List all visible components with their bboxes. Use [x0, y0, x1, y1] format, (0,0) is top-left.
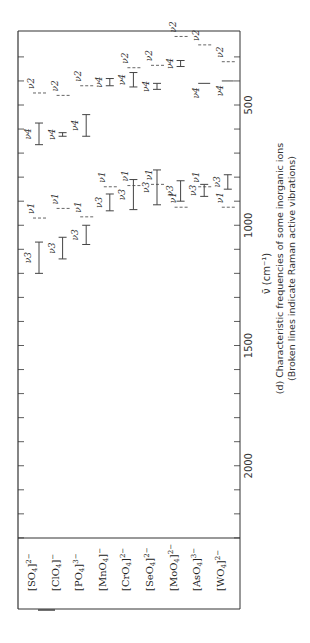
- band-nu3: ν3: [188, 184, 208, 196]
- ion-label: [PO4]3−: [72, 553, 86, 591]
- svg-text:ν4: ν4: [70, 120, 80, 131]
- ion-label: [WO4]2−: [214, 550, 228, 591]
- svg-text:ν2: ν2: [26, 78, 36, 89]
- band-nu4: ν4: [215, 81, 234, 96]
- svg-text:ν4: ν4: [117, 74, 127, 85]
- svg-text:ν1: ν1: [215, 192, 225, 203]
- svg-text:ν3: ν3: [165, 185, 175, 196]
- svg-text:ν1: ν1: [191, 172, 201, 183]
- svg-text:ν3: ν3: [188, 185, 198, 196]
- band-nu3: ν3: [70, 225, 90, 244]
- svg-text:ν3: ν3: [47, 242, 57, 253]
- svg-text:ν4: ν4: [141, 80, 151, 91]
- x-tick-label: 2000: [243, 453, 254, 478]
- band-nu4: ν4: [94, 76, 114, 87]
- ion-labels: [SO4]2−[ClO4]−[PO4]3−[MnO4]−[CrO4]2−[SeO…: [25, 544, 228, 591]
- svg-text:ν1: ν1: [144, 169, 154, 180]
- x-tick-label: 500: [243, 95, 254, 114]
- svg-text:ν2: ν2: [215, 46, 225, 57]
- band-nu2: ν2: [144, 50, 164, 65]
- svg-text:ν4: ν4: [191, 87, 201, 98]
- ion-label: [MnO4]−: [96, 548, 110, 591]
- svg-text:ν2: ν2: [50, 80, 60, 91]
- band-nu3: ν3: [94, 194, 114, 211]
- svg-text:ν2: ν2: [168, 21, 178, 32]
- band-nu2: ν2: [191, 29, 211, 44]
- band-nu1: ν1: [26, 203, 46, 218]
- band-nu2: ν2: [50, 80, 70, 95]
- svg-text:ν1: ν1: [97, 172, 107, 183]
- band-nu1: ν1: [73, 202, 93, 217]
- band-nu1: ν1: [50, 193, 70, 208]
- chart-frame: [18, 31, 240, 610]
- caption-title: (d) Characteristic frequencies of some i…: [274, 143, 285, 395]
- band-marks: ν2ν4ν1ν3ν2ν4ν1ν3ν2ν4ν1ν3ν4ν1ν3ν2ν4ν1ν3ν2…: [23, 21, 235, 273]
- svg-text:ν4: ν4: [23, 128, 33, 139]
- frequency-chart: 500100015002000ν̄ (cm⁻¹) ν2ν4ν1ν3ν2ν4ν1ν…: [0, 0, 310, 643]
- x-axis-label: ν̄ (cm⁻¹): [261, 253, 272, 294]
- svg-text:ν1: ν1: [73, 202, 83, 213]
- band-nu2: ν2: [73, 70, 93, 85]
- chart-caption: (d) Characteristic frequencies of some i…: [274, 143, 297, 395]
- ion-label: [ClO4]−: [49, 554, 63, 591]
- svg-text:ν1: ν1: [50, 193, 60, 204]
- svg-text:ν1: ν1: [120, 170, 130, 181]
- svg-text:ν4: ν4: [47, 129, 57, 140]
- band-nu3: ν3: [117, 180, 137, 210]
- band-nu1: ν1: [120, 170, 140, 185]
- svg-text:ν1: ν1: [26, 203, 36, 214]
- ion-label: [SO4]2−: [25, 553, 39, 591]
- svg-text:ν4: ν4: [165, 58, 175, 69]
- ion-label: [CrO4]2−: [119, 548, 133, 591]
- band-nu4: ν4: [191, 83, 210, 98]
- band-nu1: ν1: [215, 192, 235, 207]
- svg-text:ν3: ν3: [70, 229, 80, 240]
- band-nu4: ν4: [23, 123, 43, 145]
- band-nu1: ν1: [97, 172, 117, 187]
- svg-text:ν2: ν2: [191, 29, 201, 40]
- svg-text:ν3: ν3: [141, 182, 151, 193]
- x-tick-label: 1500: [243, 333, 254, 358]
- band-nu2: ν2: [120, 52, 140, 67]
- svg-text:ν4: ν4: [215, 85, 225, 96]
- band-nu3: ν3: [23, 242, 43, 273]
- svg-text:ν3: ν3: [117, 189, 127, 200]
- svg-text:ν3: ν3: [212, 176, 222, 187]
- svg-text:ν4: ν4: [94, 76, 104, 87]
- svg-text:ν2: ν2: [144, 50, 154, 61]
- band-nu2: ν2: [168, 21, 188, 36]
- svg-text:ν3: ν3: [94, 197, 104, 208]
- band-nu3: ν3: [212, 175, 232, 189]
- svg-text:ν2: ν2: [73, 70, 83, 81]
- band-nu2: ν2: [26, 78, 46, 93]
- band-nu4: ν4: [70, 115, 90, 137]
- ion-label: [AsO4]3−: [190, 548, 204, 591]
- band-nu4: ν4: [117, 73, 137, 87]
- band-nu2: ν2: [215, 46, 235, 61]
- ion-label: [SeO4]2−: [143, 547, 157, 591]
- band-nu4: ν4: [47, 129, 67, 140]
- caption-subtitle: (Broken lines indicate Raman active vibr…: [286, 156, 297, 381]
- x-tick-label: 1000: [243, 213, 254, 238]
- svg-text:ν3: ν3: [23, 252, 33, 263]
- band-nu3: ν3: [47, 237, 67, 259]
- svg-text:ν2: ν2: [120, 52, 130, 63]
- ion-label: [MoO4]2−: [167, 544, 181, 591]
- band-nu4: ν4: [165, 58, 185, 69]
- band-nu4: ν4: [141, 80, 161, 91]
